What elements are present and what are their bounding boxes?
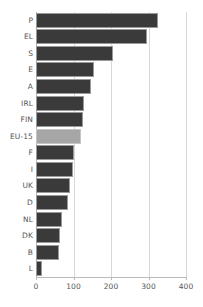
bar-dk[interactable] bbox=[36, 228, 60, 243]
category-label-l: L bbox=[0, 264, 33, 273]
bar-fin[interactable] bbox=[36, 112, 83, 127]
plot-area bbox=[36, 12, 186, 277]
bar-a[interactable] bbox=[36, 79, 91, 94]
bar-p[interactable] bbox=[36, 13, 158, 28]
bar-row bbox=[36, 46, 186, 61]
bar-row bbox=[36, 261, 186, 276]
bar-row bbox=[36, 29, 186, 44]
bar-f[interactable] bbox=[36, 145, 74, 160]
bar-row bbox=[36, 245, 186, 260]
bar-row bbox=[36, 178, 186, 193]
category-label-f: F bbox=[0, 148, 33, 157]
category-label-eu-15: EU-15 bbox=[0, 132, 33, 141]
x-tick-label-100: 100 bbox=[66, 282, 80, 291]
x-tick-label-400: 400 bbox=[179, 282, 193, 291]
gridline-400 bbox=[186, 12, 187, 277]
bar-row bbox=[36, 96, 186, 111]
bar-eu-15[interactable] bbox=[36, 129, 81, 144]
bar-nl[interactable] bbox=[36, 212, 62, 227]
bar-e[interactable] bbox=[36, 62, 94, 77]
x-tick-300 bbox=[149, 277, 150, 280]
bar-row bbox=[36, 212, 186, 227]
bar-row bbox=[36, 162, 186, 177]
category-label-p: P bbox=[0, 16, 33, 25]
category-label-nl: NL bbox=[0, 215, 33, 224]
bar-row bbox=[36, 129, 186, 144]
category-label-b: B bbox=[0, 248, 33, 257]
category-label-e: E bbox=[0, 65, 33, 74]
category-label-uk: UK bbox=[0, 181, 33, 190]
bar-i[interactable] bbox=[36, 162, 73, 177]
category-label-el: EL bbox=[0, 32, 33, 41]
bar-chart: PELSEAIRLFINEU-15FIUKDNLDKBL 01002003004… bbox=[0, 0, 203, 307]
x-tick-label-200: 200 bbox=[104, 282, 118, 291]
bar-row bbox=[36, 13, 186, 28]
category-label-a: A bbox=[0, 82, 33, 91]
bar-uk[interactable] bbox=[36, 178, 70, 193]
x-tick-200 bbox=[111, 277, 112, 280]
bar-s[interactable] bbox=[36, 46, 113, 61]
category-label-irl: IRL bbox=[0, 99, 33, 108]
bar-el[interactable] bbox=[36, 29, 147, 44]
bar-row bbox=[36, 145, 186, 160]
bar-irl[interactable] bbox=[36, 96, 84, 111]
x-tick-label-300: 300 bbox=[141, 282, 155, 291]
x-tick-0 bbox=[36, 277, 37, 280]
category-label-i: I bbox=[0, 165, 33, 174]
category-label-d: D bbox=[0, 198, 33, 207]
bar-l[interactable] bbox=[36, 261, 42, 276]
bar-row bbox=[36, 79, 186, 94]
x-tick-400 bbox=[186, 277, 187, 280]
y-axis-category-labels: PELSEAIRLFINEU-15FIUKDNLDKBL bbox=[0, 12, 33, 277]
bar-row bbox=[36, 112, 186, 127]
x-axis-tick-labels: 0100200300400 bbox=[0, 282, 203, 296]
bar-row bbox=[36, 62, 186, 77]
bar-row bbox=[36, 195, 186, 210]
category-label-s: S bbox=[0, 49, 33, 58]
bar-d[interactable] bbox=[36, 195, 68, 210]
category-label-dk: DK bbox=[0, 231, 33, 240]
category-label-fin: FIN bbox=[0, 115, 33, 124]
x-tick-100 bbox=[74, 277, 75, 280]
x-tick-label-0: 0 bbox=[34, 282, 39, 291]
bar-b[interactable] bbox=[36, 245, 59, 260]
bar-row bbox=[36, 228, 186, 243]
